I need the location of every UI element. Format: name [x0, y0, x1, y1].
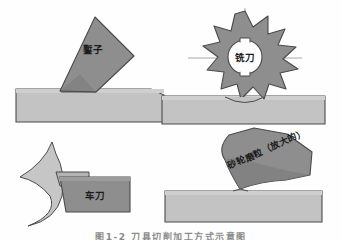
cutting-processes-diagram: 鏨子 铣刀 [0, 0, 342, 240]
milling-cutter-keyway [240, 38, 250, 43]
workpiece-top-face-grinding [165, 191, 322, 195]
chisel-label: 鏨子 [82, 44, 104, 55]
workpiece-block-grinding [165, 191, 322, 222]
milling-cutter-label: 铣刀 [235, 52, 256, 63]
workpiece-block-chiseling [16, 89, 164, 122]
turning-tool-label: 车刀 [85, 190, 106, 201]
figure-caption: 图1-2 刀具切削加工方式示意图 [0, 231, 342, 240]
turning-tool-top-face [60, 177, 130, 181]
milling-cutter-keyway-bottom [240, 72, 250, 76]
figure-container: 鏨子 铣刀 [0, 0, 342, 240]
